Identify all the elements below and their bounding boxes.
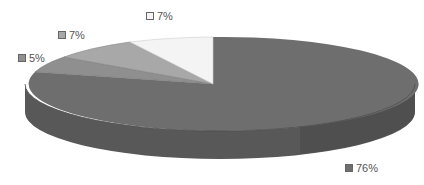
data-label-slice-3: 7% xyxy=(146,10,173,22)
swatch-icon xyxy=(58,31,66,39)
label-text: 5% xyxy=(29,52,45,64)
pie-chart xyxy=(0,0,424,185)
swatch-icon xyxy=(18,54,26,62)
label-text: 7% xyxy=(157,10,173,22)
data-label-slice-2: 7% xyxy=(58,29,85,41)
label-text: 76% xyxy=(356,162,378,174)
label-text: 7% xyxy=(69,29,85,41)
swatch-icon xyxy=(146,12,154,20)
swatch-icon xyxy=(345,164,353,172)
data-label-slice-0: 76% xyxy=(345,162,378,174)
data-label-slice-1: 5% xyxy=(18,52,45,64)
